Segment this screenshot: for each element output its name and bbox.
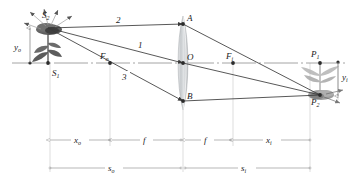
dimension-row-upper-labels: xo f f xi <box>71 132 281 146</box>
label-ray-3: 3 <box>121 72 127 82</box>
point-B <box>181 99 185 103</box>
label-P1: P1 <box>310 49 320 60</box>
label-yo: yo <box>13 42 21 53</box>
height-yo: yo <box>13 28 30 63</box>
label-Fi: Fi <box>225 51 234 62</box>
point-Fo <box>108 61 112 65</box>
point-P2 <box>318 93 322 97</box>
label-Fo: Fo <box>99 51 109 62</box>
label-yi: yi <box>341 72 348 83</box>
label-A: A <box>186 13 193 23</box>
point-O <box>181 61 185 65</box>
label-S2: S2 <box>42 10 50 21</box>
optics-diagram-canvas: yo yi xo f f xi so <box>0 0 354 184</box>
ray-diagram-svg: yo yi xo f f xi so <box>0 0 354 184</box>
image-flower-inverted <box>301 64 343 103</box>
label-ray-1: 1 <box>138 40 143 50</box>
label-O: O <box>187 52 194 62</box>
point-A <box>181 22 185 26</box>
point-S1 <box>46 61 50 65</box>
dimension-row-lower-labels: so si <box>105 160 256 174</box>
ray-number-labels: 2 1 3 <box>114 14 146 82</box>
label-B: B <box>187 91 193 101</box>
label-S1: S1 <box>52 68 60 79</box>
label-ray-2: 2 <box>116 15 121 25</box>
point-P1 <box>318 61 322 65</box>
